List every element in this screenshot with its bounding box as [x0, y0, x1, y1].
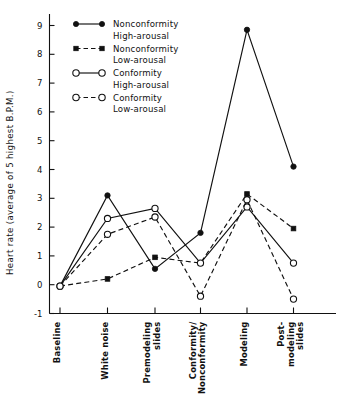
x-axis-category-labels: BaselineWhite noisePremodelingslidesConf…: [52, 321, 305, 394]
series-1: [58, 192, 296, 289]
y-tick-label: 6: [37, 107, 42, 117]
legend-marker-open: [73, 70, 79, 76]
data-point-filled: [244, 27, 249, 32]
x-category-label: slides: [152, 322, 162, 351]
legend-label-line1: Conformity: [113, 68, 162, 78]
chart-figure: 9876543210-1 BaselineWhite noisePremodel…: [0, 0, 346, 400]
data-point-filled: [153, 255, 158, 260]
data-point-filled: [245, 192, 250, 197]
data-point-open: [104, 215, 110, 221]
y-tick-label: 4: [37, 165, 42, 175]
x-category-label: Conformity/: [188, 321, 198, 379]
y-axis-title: Heart rate (average of 5 highest B.P.M.): [5, 90, 15, 275]
legend-marker-filled: [99, 21, 104, 26]
series-line: [60, 200, 294, 299]
legend-marker-filled: [74, 46, 78, 50]
x-category-label: Modeling: [239, 322, 249, 367]
data-point-open: [152, 205, 158, 211]
y-tick-label: -1: [34, 309, 42, 319]
data-point-filled: [105, 193, 110, 198]
x-category-label: Baseline: [52, 321, 62, 363]
data-point-open: [290, 296, 296, 302]
y-tick-label: 8: [37, 49, 42, 59]
x-category-label: Post-: [276, 321, 286, 347]
data-point-filled: [152, 266, 157, 271]
series-2: [57, 204, 297, 289]
legend-entry: NonconformityHigh-arousal: [73, 19, 178, 40]
data-point-open: [152, 214, 158, 220]
y-axis-ticks: [50, 26, 55, 314]
legend-entry: NonconformityLow-arousal: [74, 44, 179, 65]
legend-label-line1: Nonconformity: [113, 19, 178, 29]
y-axis-tick-labels: 9876543210-1: [34, 21, 42, 319]
legend-marker-open: [73, 94, 79, 100]
chart-legend: NonconformityHigh-arousalNonconformityLo…: [73, 19, 179, 114]
y-tick-label: 5: [37, 136, 42, 146]
legend-marker-open: [99, 70, 105, 76]
data-point-filled: [291, 164, 296, 169]
legend-marker-filled: [73, 21, 78, 26]
y-tick-label: 1: [37, 251, 42, 261]
data-point-open: [290, 260, 296, 266]
data-point-filled: [198, 230, 203, 235]
legend-entry: ConformityLow-arousal: [73, 93, 166, 114]
data-point-filled: [105, 277, 110, 282]
x-category-label: slides: [295, 322, 305, 351]
y-tick-label: 9: [37, 21, 42, 31]
heart-rate-line-chart: 9876543210-1 BaselineWhite noisePremodel…: [0, 0, 346, 400]
legend-label-line2: High-arousal: [113, 31, 169, 41]
data-point-open: [104, 231, 110, 237]
data-point-open: [244, 197, 250, 203]
data-point-open: [197, 293, 203, 299]
legend-entry: ConformityHigh-arousal: [73, 68, 169, 89]
legend-label-line2: Low-arousal: [113, 104, 166, 114]
y-tick-label: 7: [37, 78, 42, 88]
legend-marker-open: [99, 94, 105, 100]
legend-marker-filled: [100, 46, 104, 50]
data-point-open: [197, 260, 203, 266]
x-category-label: Nonconformity: [197, 321, 207, 394]
x-category-label: modeling: [286, 322, 296, 367]
legend-label-line1: Conformity: [113, 93, 162, 103]
data-point-open: [57, 283, 63, 289]
series-3: [57, 197, 297, 303]
data-series-group: [57, 27, 297, 302]
series-line: [60, 194, 294, 286]
data-point-filled: [291, 226, 296, 231]
y-tick-label: 2: [37, 222, 42, 232]
x-category-label: White noise: [100, 321, 110, 379]
y-tick-label: 3: [37, 193, 42, 203]
x-axis-ticks: [60, 308, 294, 314]
y-tick-label: 0: [37, 280, 42, 290]
legend-label-line2: Low-arousal: [113, 55, 166, 65]
x-category-label: Premodeling: [142, 322, 152, 384]
legend-label-line1: Nonconformity: [113, 44, 178, 54]
legend-label-line2: High-arousal: [113, 80, 169, 90]
